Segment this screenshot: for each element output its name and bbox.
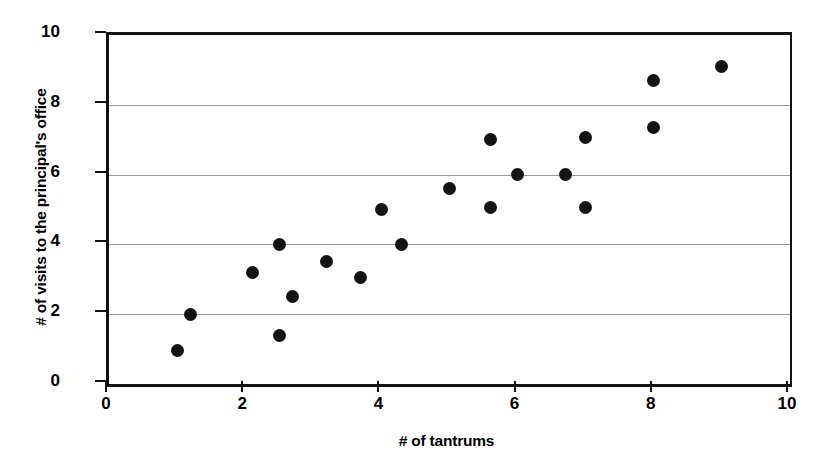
data-point: [559, 168, 572, 181]
data-point: [354, 271, 367, 284]
y-tick-label: 8: [14, 93, 60, 110]
data-point: [647, 121, 660, 134]
x-tick-mark: [786, 381, 788, 392]
x-tick-mark: [377, 381, 379, 392]
x-tick-mark: [650, 381, 652, 392]
gridline: [109, 314, 790, 315]
gridline: [109, 105, 790, 106]
data-point: [286, 290, 299, 303]
y-tick-label: 4: [14, 232, 60, 249]
x-axis-ticks: 0246810: [0, 381, 832, 421]
y-tick-mark: [95, 171, 106, 173]
y-tick-mark: [95, 31, 106, 33]
x-tick-mark: [105, 381, 107, 392]
data-point: [715, 60, 728, 73]
y-tick-label: 6: [14, 163, 60, 180]
x-tick-label: 10: [767, 395, 807, 412]
x-tick-label: 6: [495, 395, 535, 412]
x-tick-label: 8: [631, 395, 671, 412]
data-point: [171, 344, 184, 357]
x-tick-mark: [514, 381, 516, 392]
scatter-chart: # of visits to the principal's office 02…: [0, 0, 832, 476]
data-point: [246, 266, 259, 279]
data-point: [375, 203, 388, 216]
data-point: [484, 133, 497, 146]
y-tick-mark: [95, 240, 106, 242]
data-point: [511, 168, 524, 181]
gridline: [109, 175, 790, 176]
data-point: [443, 182, 456, 195]
data-point: [647, 74, 660, 87]
x-axis-title: # of tantrums: [106, 432, 787, 450]
data-point: [273, 238, 286, 251]
data-point: [484, 201, 497, 214]
data-point: [273, 329, 286, 342]
gridline: [109, 244, 790, 245]
data-point: [395, 238, 408, 251]
y-tick-mark: [95, 310, 106, 312]
y-tick-mark: [95, 101, 106, 103]
x-tick-label: 4: [358, 395, 398, 412]
x-tick-label: 0: [86, 395, 126, 412]
y-tick-label: 2: [14, 302, 60, 319]
data-point: [579, 131, 592, 144]
x-tick-label: 2: [222, 395, 262, 412]
plot-area: [106, 32, 792, 387]
data-point: [579, 201, 592, 214]
data-point: [184, 308, 197, 321]
data-point: [320, 255, 333, 268]
y-tick-label: 10: [14, 23, 60, 40]
x-tick-mark: [241, 381, 243, 392]
